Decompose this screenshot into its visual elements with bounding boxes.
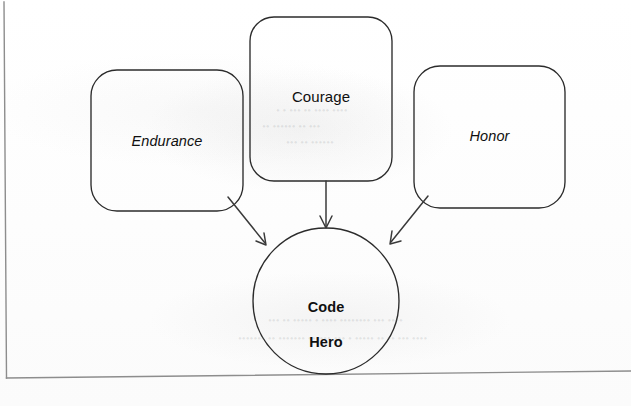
page-left-rule	[4, 2, 7, 378]
node-honor-label: Honor	[414, 128, 565, 146]
node-endurance-label: Endurance	[91, 133, 243, 151]
edge-courage-to-code-hero	[320, 181, 332, 228]
node-code-hero-label-line2: Hero	[253, 334, 399, 352]
edge-honor-to-code-hero	[390, 196, 428, 244]
edge-endurance-to-code-hero	[228, 197, 266, 245]
node-code-hero-label-line1: Code	[253, 299, 399, 317]
node-code-hero-label: Code Hero	[253, 281, 399, 369]
scanned-figure-page: .shape-stroke { fill: #ffffff; fill-opac…	[0, 0, 631, 406]
node-courage-label: Courage	[250, 88, 392, 106]
